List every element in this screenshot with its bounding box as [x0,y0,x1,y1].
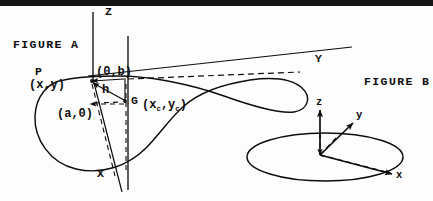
diagram-linework [0,0,433,201]
figure-a-z-axis-label: Z [105,6,112,18]
figure-a-y-axis-label: Y [315,53,322,65]
figure-page: FIGURE A Z Y X P (x,y) (0,b) h (a,0) G (… [0,0,433,201]
figure-a-dashed-chord [128,72,300,79]
figure-a-point-p-coords: (x,y) [29,79,65,91]
centroid-coords-open: (x [142,98,156,112]
figure-b-hidden-axis-dashes [320,134,386,172]
figure-a-centroid-coords: (xc,yc) [142,99,187,114]
figure-b-title: FIGURE B [364,76,430,88]
figure-b-z-axis-label: z [316,97,322,108]
figure-b-x-axis-label: x [396,170,402,181]
figure-a-title: FIGURE A [13,39,79,51]
centroid-coords-mid: ,y [161,98,175,112]
figure-a-point-p-marker [90,79,94,83]
centroid-coords-close: ) [180,98,187,112]
figure-a-x-axis-label: X [97,168,104,180]
figure-b-y-axis-label: y [356,110,362,121]
figure-a-centroid-label: G [131,95,138,107]
figure-a-h-label: h [102,84,109,96]
figure-a-a-coords-label: (a,0) [57,108,93,120]
figure-a-origin-offset-label: (0,b) [96,66,132,78]
figure-a-dashed-slant-line [92,84,116,180]
figure-a-point-p-label: P [35,66,42,78]
figure-a-lamina-outline [35,76,308,171]
figure-a-centroid-marker [123,99,127,103]
figure-b-y-axis [320,123,353,155]
